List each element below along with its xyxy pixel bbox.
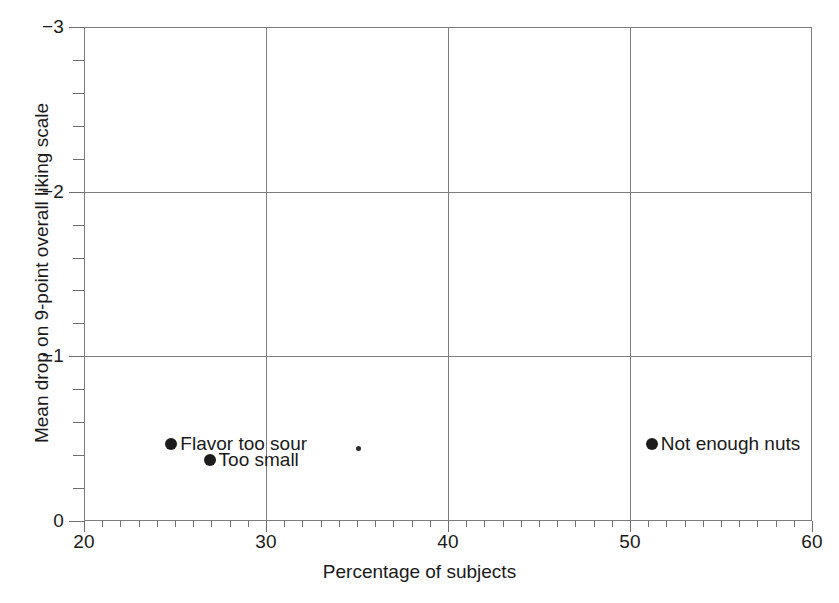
y-axis-major-tick bbox=[69, 356, 84, 357]
x-axis-minor-tick bbox=[739, 521, 740, 527]
y-axis-minor-tick bbox=[73, 488, 84, 489]
x-axis-minor-tick bbox=[721, 521, 722, 527]
x-axis-tick-label: 40 bbox=[418, 531, 478, 553]
x-axis-minor-tick bbox=[539, 521, 540, 527]
data-point-marker bbox=[646, 438, 658, 450]
x-axis-minor-tick bbox=[594, 521, 595, 527]
x-axis-minor-tick bbox=[685, 521, 686, 527]
x-axis-minor-tick bbox=[120, 521, 121, 527]
x-axis-minor-tick bbox=[757, 521, 758, 527]
x-axis-minor-tick bbox=[321, 521, 322, 527]
x-axis-minor-tick bbox=[375, 521, 376, 527]
gridline-horizontal bbox=[85, 192, 811, 193]
scatter-chart-figure: 2030405060−3−2−10 Flavor too sourToo sma… bbox=[0, 0, 839, 603]
y-axis-minor-tick bbox=[73, 455, 84, 456]
x-axis-minor-tick bbox=[284, 521, 285, 527]
y-axis-minor-tick bbox=[73, 290, 84, 291]
x-axis-minor-tick bbox=[193, 521, 194, 527]
gridline-horizontal bbox=[85, 356, 811, 357]
x-axis-minor-tick bbox=[666, 521, 667, 527]
y-axis-minor-tick bbox=[73, 389, 84, 390]
data-point-marker bbox=[165, 438, 177, 450]
y-axis-major-tick bbox=[69, 521, 84, 522]
data-point-marker bbox=[204, 454, 216, 466]
y-axis-minor-tick bbox=[73, 93, 84, 94]
x-axis-minor-tick bbox=[302, 521, 303, 527]
x-axis-minor-tick bbox=[484, 521, 485, 527]
x-axis-minor-tick bbox=[776, 521, 777, 527]
y-axis-minor-tick bbox=[73, 159, 84, 160]
x-axis-minor-tick bbox=[211, 521, 212, 527]
x-axis-minor-tick bbox=[139, 521, 140, 527]
x-axis-tick-label: 50 bbox=[600, 531, 660, 553]
x-axis-minor-tick bbox=[794, 521, 795, 527]
x-axis-minor-tick bbox=[248, 521, 249, 527]
x-axis-title: Percentage of subjects bbox=[0, 561, 839, 583]
y-axis-minor-tick bbox=[73, 126, 84, 127]
y-axis-minor-tick bbox=[73, 225, 84, 226]
x-axis-minor-tick bbox=[393, 521, 394, 527]
x-axis-minor-tick bbox=[521, 521, 522, 527]
x-axis-minor-tick bbox=[430, 521, 431, 527]
x-axis-tick-label: 20 bbox=[54, 531, 114, 553]
data-point-label: Too small bbox=[219, 450, 299, 470]
y-axis-major-tick bbox=[69, 27, 84, 28]
gridline-vertical bbox=[448, 28, 449, 520]
x-axis-minor-tick bbox=[703, 521, 704, 527]
x-axis-minor-tick bbox=[175, 521, 176, 527]
x-axis-minor-tick bbox=[466, 521, 467, 527]
y-axis-minor-tick bbox=[73, 323, 84, 324]
x-axis-minor-tick bbox=[412, 521, 413, 527]
x-axis-minor-tick bbox=[102, 521, 103, 527]
data-point-label: Not enough nuts bbox=[661, 434, 800, 454]
gridline-vertical bbox=[630, 28, 631, 520]
y-axis-major-tick bbox=[69, 192, 84, 193]
x-axis-minor-tick bbox=[157, 521, 158, 527]
x-axis-tick-label: 60 bbox=[782, 531, 839, 553]
x-axis-minor-tick bbox=[503, 521, 504, 527]
x-axis-minor-tick bbox=[648, 521, 649, 527]
x-axis-minor-tick bbox=[230, 521, 231, 527]
x-axis-minor-tick bbox=[612, 521, 613, 527]
x-axis-minor-tick bbox=[357, 521, 358, 527]
x-axis-minor-tick bbox=[339, 521, 340, 527]
x-axis-tick-label: 30 bbox=[236, 531, 296, 553]
y-axis-minor-tick bbox=[73, 60, 84, 61]
x-axis-minor-tick bbox=[557, 521, 558, 527]
y-axis-minor-tick bbox=[73, 258, 84, 259]
y-axis-minor-tick bbox=[73, 422, 84, 423]
x-axis-minor-tick bbox=[575, 521, 576, 527]
y-axis-title: Mean drop on 9-point overall liking scal… bbox=[31, 13, 53, 533]
